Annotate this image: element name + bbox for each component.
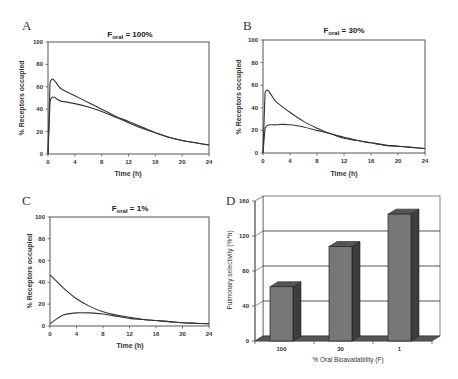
bar-side (352, 242, 360, 342)
x-tick-label: 30 (337, 346, 344, 352)
bar-side (411, 209, 419, 341)
panel-c: C Foral = 1% Time (h) % Receptors occupi… (22, 193, 213, 350)
upper-curve (263, 90, 425, 153)
upper-curve (48, 79, 209, 154)
y-tick-label: 160 (239, 198, 250, 204)
x-tick-label: 20 (179, 159, 186, 165)
y-tick-label: 40 (242, 303, 249, 309)
x-axis-label: % Oral Bioavailability (F) (312, 356, 383, 364)
y-tick-label: 20 (36, 129, 43, 135)
plot-frame (48, 42, 209, 154)
x-tick-label: 8 (315, 158, 319, 164)
bar-front (388, 214, 411, 341)
x-tick-label: 100 (276, 346, 287, 352)
panel-a: A Foral = 100% Time (h) % Receptors occu… (18, 18, 213, 178)
panel-title: Foral = 100% (107, 30, 152, 40)
plot-frame (263, 40, 425, 153)
x-tick-label: 0 (46, 159, 50, 165)
x-tick-label: 24 (422, 158, 429, 164)
curves (50, 275, 209, 324)
y-tick-label: 80 (251, 60, 258, 66)
y-tick-label: 20 (251, 127, 258, 133)
bar (270, 282, 301, 341)
x-tick-label: 16 (153, 331, 160, 337)
bar (329, 242, 360, 342)
y-axis-label: % Receptors occupied (235, 59, 243, 134)
panel-title: Foral = 1% (112, 204, 149, 214)
y-tick-label: 20 (38, 301, 45, 307)
y-tick-label: 80 (242, 268, 249, 274)
panel-d: D 04080120160100301 % Oral Bioavailabili… (226, 193, 440, 364)
curves (48, 79, 209, 154)
x-axis-label: Time (h) (114, 170, 141, 178)
x-tick-label: 4 (288, 158, 292, 164)
y-tick-label: 60 (251, 82, 258, 88)
lower-curve (50, 313, 209, 324)
y-tick-label: 100 (33, 39, 44, 45)
x-tick-label: 8 (100, 159, 104, 165)
bar-front (270, 287, 293, 341)
y-tick-label: 0 (246, 338, 250, 344)
y-tick-label: 0 (42, 323, 46, 329)
x-tick-label: 12 (341, 158, 348, 164)
bar-side (293, 282, 301, 341)
lower-curve (263, 124, 425, 153)
x-tick-label: 12 (125, 159, 132, 165)
x-tick-label: 24 (206, 159, 213, 165)
x-tick-label: 8 (101, 331, 105, 337)
y-tick-label: 40 (251, 105, 258, 111)
lower-curve (48, 97, 209, 154)
y-axis-label: % Receptors occupied (26, 233, 34, 308)
x-tick-label: 16 (152, 159, 159, 165)
y-axis-label: Pulmonary selectivity (%*h) (226, 230, 234, 309)
x-tick-label: 16 (368, 158, 375, 164)
y-tick-label: 40 (38, 279, 45, 285)
x-tick-label: 0 (261, 158, 265, 164)
y-tick-label: 60 (36, 84, 43, 90)
y-tick-label: 80 (38, 236, 45, 242)
x-axis-label: Time (h) (116, 342, 143, 350)
x-tick-label: 20 (179, 331, 186, 337)
x-tick-label: 4 (75, 331, 79, 337)
x-tick-label: 20 (395, 158, 402, 164)
y-axis-label: % Receptors occupied (18, 60, 26, 135)
y-tick-label: 60 (38, 258, 45, 264)
x-tick-label: 4 (73, 159, 77, 165)
x-axis-label: Time (h) (330, 170, 357, 178)
bar-front (329, 247, 352, 342)
y-tick-label: 0 (40, 151, 44, 157)
bar (388, 209, 419, 341)
panel-letter: B (243, 18, 252, 33)
y-tick-label: 40 (36, 106, 43, 112)
plot-frame (50, 217, 209, 326)
upper-curve (50, 275, 209, 324)
y-tick-label: 100 (35, 214, 46, 220)
x-tick-label: 12 (126, 331, 133, 337)
figure: A Foral = 100% Time (h) % Receptors occu… (0, 0, 458, 379)
x-tick-label: 1 (398, 346, 402, 352)
x-tick-label: 0 (48, 331, 52, 337)
panel-letter: C (22, 193, 31, 208)
panel-b: B Foral = 30% Time (h) % Receptors occup… (235, 18, 429, 178)
panel-letter: D (226, 193, 235, 208)
curves (263, 90, 425, 153)
y-tick-label: 100 (248, 37, 259, 43)
panel-title: Foral = 30% (323, 26, 364, 36)
y-tick-label: 80 (36, 61, 43, 67)
x-tick-label: 24 (206, 331, 213, 337)
y-tick-label: 120 (239, 233, 250, 239)
y-tick-label: 0 (255, 150, 259, 156)
bar-chart: 04080120160100301 (239, 196, 440, 352)
panel-letter: A (22, 18, 32, 33)
